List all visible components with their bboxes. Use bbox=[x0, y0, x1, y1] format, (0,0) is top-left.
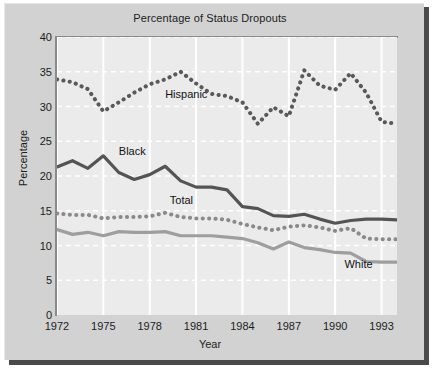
series-annotation-total: Total bbox=[170, 194, 193, 206]
x-tick-label: 1978 bbox=[128, 320, 172, 332]
chart-title: Percentage of Status Dropouts bbox=[0, 12, 420, 24]
card-highlight-top bbox=[4, 3, 424, 4]
plot-svg bbox=[57, 37, 397, 315]
y-tick-label: 5 bbox=[6, 274, 52, 286]
y-tick-label: 10 bbox=[6, 240, 52, 252]
x-tick-label: 1981 bbox=[174, 320, 218, 332]
x-axis-ticks: 19721975197819811984198719901993 bbox=[57, 320, 397, 336]
series-annotation-black: Black bbox=[119, 145, 146, 157]
y-tick-label: 40 bbox=[6, 31, 52, 43]
y-axis-ticks: 0510152025303540 bbox=[0, 37, 52, 315]
plot-area bbox=[57, 37, 397, 315]
y-tick-label: 20 bbox=[6, 170, 52, 182]
card-shadow-bottom bbox=[9, 360, 429, 365]
card-shadow-right bbox=[424, 7, 429, 364]
x-tick-label: 1972 bbox=[35, 320, 79, 332]
y-tick-label: 30 bbox=[6, 101, 52, 113]
chart-figure: Percentage of Status Dropouts Percentage… bbox=[0, 0, 435, 376]
x-tick-label: 1987 bbox=[267, 320, 311, 332]
y-tick-label: 15 bbox=[6, 205, 52, 217]
series-annotation-hispanic: Hispanic bbox=[165, 88, 207, 100]
x-tick-label: 1975 bbox=[81, 320, 125, 332]
y-tick-label: 35 bbox=[6, 66, 52, 78]
series-line-hispanic bbox=[57, 70, 397, 124]
x-tick-label: 1984 bbox=[220, 320, 264, 332]
x-tick-label: 1993 bbox=[360, 320, 404, 332]
x-tick-label: 1990 bbox=[313, 320, 357, 332]
series-annotation-white: White bbox=[344, 258, 372, 270]
series-line-black bbox=[57, 156, 397, 223]
y-tick-label: 25 bbox=[6, 135, 52, 147]
x-axis-label: Year bbox=[0, 338, 420, 350]
